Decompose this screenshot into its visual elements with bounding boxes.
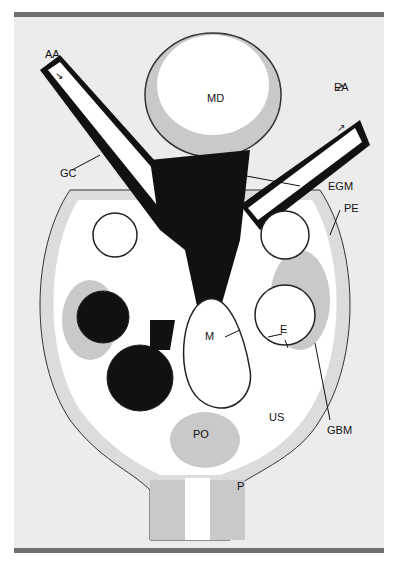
label-e: E [280, 324, 287, 335]
label-p: P [237, 481, 244, 492]
bottom-rule [14, 548, 384, 553]
proximal-lumen [185, 478, 210, 540]
aa-flow-arrow-icon: ↘ [55, 71, 63, 81]
capillary-loop [255, 285, 315, 345]
label-us: US [269, 412, 284, 423]
label-m: M [205, 331, 214, 342]
label-md: MD [207, 93, 224, 104]
proximal-tubule-left [150, 480, 185, 540]
label-egm: EGM [328, 181, 353, 192]
label-po: PO [193, 429, 209, 440]
ea-flow-arrow-icon: ↗ [337, 123, 345, 133]
label-gc: GC [60, 168, 77, 179]
label-gbm: GBM [327, 425, 352, 436]
capillary-loop [93, 213, 137, 257]
capillary-loop [261, 211, 309, 259]
podocyte [170, 412, 240, 468]
label-ea: EA [334, 82, 349, 93]
label-pe: PE [344, 203, 359, 214]
filled-capillary [107, 345, 173, 411]
label-aa: AA [45, 49, 60, 60]
filled-capillary [77, 291, 129, 343]
